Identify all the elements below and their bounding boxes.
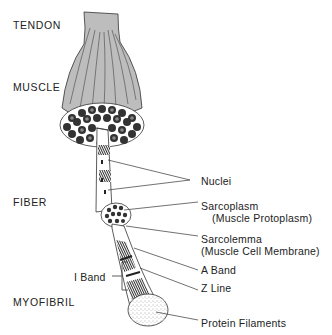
- callout-sarcoplasm-sub: (Muscle Protoplasm): [201, 212, 312, 224]
- muscle-illustration: [0, 0, 332, 335]
- myofibril: [112, 224, 168, 326]
- callout-nuclei: Nuclei: [201, 175, 231, 187]
- callout-z-line: Z Line: [201, 282, 231, 294]
- level-label-myofibril: MYOFIBRIL: [13, 296, 75, 308]
- level-label-muscle: MUSCLE: [13, 81, 60, 93]
- callout-a-band: A Band: [201, 264, 236, 276]
- level-label-fiber: FIBER: [13, 196, 47, 208]
- muscle-belly: [60, 12, 144, 147]
- muscle-diagram: TENDON MUSCLE FIBER MYOFIBRIL Nuclei Sar…: [0, 0, 332, 335]
- level-label-tendon: TENDON: [13, 19, 61, 31]
- callout-i-band: I Band: [74, 271, 106, 283]
- callout-sarcolemma: Sarcolemma: [201, 233, 262, 245]
- callout-sarcolemma-sub: (Muscle Cell Membrane): [201, 245, 320, 257]
- callout-protein-filaments: Protein Filaments: [201, 317, 286, 329]
- callout-sarcoplasm: Sarcoplasm: [201, 200, 258, 212]
